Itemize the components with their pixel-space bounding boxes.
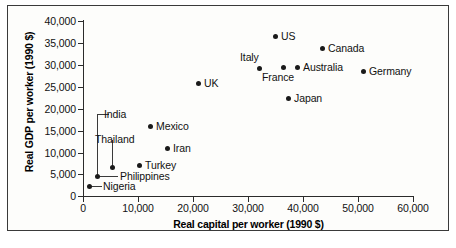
data-label-india: India [104,109,126,120]
data-point-nigeria[interactable] [87,184,92,189]
chart-figure: 0 5,000 10,000 15,000 20,000 25,000 30,0… [0,0,456,248]
y-tick-10000 [78,153,84,154]
y-tick-label-0: 0 [18,191,76,201]
data-point-thailand[interactable] [110,165,115,170]
data-point-canada[interactable] [320,46,325,51]
data-point-italy[interactable] [257,66,262,71]
y-tick-40000 [78,21,84,22]
data-point-france[interactable] [281,65,286,70]
data-label-australia: Australia [303,62,343,73]
data-point-australia[interactable] [295,65,300,70]
data-label-nigeria: Nigeria [103,181,136,192]
data-point-mexico[interactable] [148,124,153,129]
data-label-us: US [281,31,295,42]
y-tick-15000 [78,131,84,132]
y-tick-25000 [78,87,84,88]
x-tick-label-60000: 60,000 [378,203,448,214]
y-tick-30000 [78,65,84,66]
data-label-mexico: Mexico [156,121,189,132]
data-point-germany[interactable] [361,69,366,74]
scatter-plot-area: 0 5,000 10,000 15,000 20,000 25,000 30,0… [0,0,456,248]
data-label-japan: Japan [294,93,322,104]
data-label-iran: Iran [173,143,191,154]
y-tick-35000 [78,43,84,44]
data-point-uk[interactable] [196,81,201,86]
data-point-turkey[interactable] [137,163,142,168]
y-axis-title: Real GDP per worker (1990 $) [23,17,35,187]
data-label-canada: Canada [328,43,364,54]
data-label-thailand: Thailand [95,134,134,145]
leader-line-india-vertical [97,114,98,177]
y-tick-5000 [78,174,84,175]
data-point-iran[interactable] [165,146,170,151]
data-label-italy: Italy [240,52,259,63]
leader-line-nigeria-horizontal [90,186,102,187]
data-point-japan[interactable] [286,96,291,101]
data-point-us[interactable] [273,34,278,39]
leader-line-philippines-horizontal [98,176,118,177]
data-label-france: France [262,72,294,83]
y-tick-20000 [78,109,84,110]
x-axis-title: Real capital per worker (1990 $) [83,218,414,230]
data-label-germany: Germany [369,66,411,77]
data-label-uk: UK [204,78,218,89]
data-point-philippines[interactable] [95,174,100,179]
